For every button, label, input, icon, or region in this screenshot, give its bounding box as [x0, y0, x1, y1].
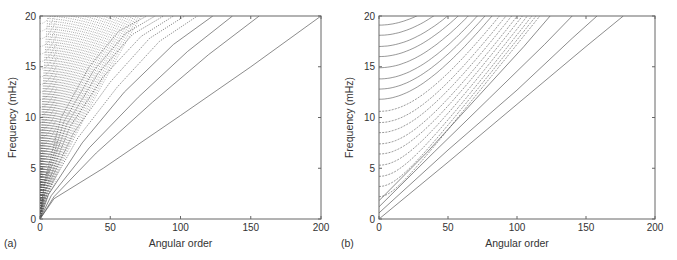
x-tick-label: 0 — [376, 222, 382, 233]
y-tick-label: 10 — [364, 112, 376, 123]
x-tick-label: 150 — [242, 222, 259, 233]
y-tick-label: 5 — [369, 163, 375, 174]
branch-line — [379, 9, 542, 187]
x-tick-label: 100 — [509, 222, 526, 233]
chart-a-svg: 05010015020005101520Angular orderFrequen… — [0, 0, 338, 260]
y-tick-label: 15 — [25, 61, 37, 72]
branch-line — [40, 16, 164, 219]
y-axis-label: Frequency (mHz) — [6, 77, 18, 158]
branch-line — [40, 16, 321, 219]
y-tick-label: 20 — [364, 11, 376, 22]
branch-line — [40, 19, 57, 39]
branch-line — [379, 16, 623, 219]
x-tick-label: 200 — [313, 222, 330, 233]
branch-line — [379, 10, 443, 36]
branch-line — [379, 9, 476, 68]
y-tick-label: 5 — [30, 163, 36, 174]
branch-line — [379, 9, 429, 25]
branch-line — [40, 4, 57, 24]
chart-b-svg: 05010015020005101520Angular orderFrequen… — [337, 0, 677, 260]
branch-line — [379, 16, 572, 207]
x-tick-label: 0 — [37, 222, 43, 233]
x-axis-label: Angular order — [485, 237, 549, 249]
panel-tag-b: (b) — [341, 237, 354, 249]
y-tick-label: 0 — [30, 214, 36, 225]
branch-line — [40, 16, 259, 219]
x-tick-label: 50 — [105, 222, 117, 233]
branch-line — [40, 16, 233, 219]
panel-b: 05010015020005101520Angular orderFrequen… — [337, 0, 675, 260]
branches — [379, 8, 623, 219]
x-tick-label: 150 — [578, 222, 595, 233]
x-axis-label: Angular order — [149, 237, 213, 249]
axes-frame — [379, 16, 655, 219]
branch-line — [379, 16, 597, 213]
y-tick-label: 0 — [369, 214, 375, 225]
branch-line — [40, 16, 127, 219]
x-tick-label: 200 — [647, 222, 664, 233]
y-tick-label: 20 — [25, 11, 37, 22]
branches — [40, 4, 321, 219]
x-tick-label: 50 — [442, 222, 454, 233]
branch-line — [379, 10, 465, 57]
branch-line — [40, 16, 213, 219]
y-tick-label: 15 — [364, 61, 376, 72]
branch-line — [40, 16, 174, 219]
y-axis-label: Frequency (mHz) — [343, 77, 355, 158]
branch-line — [379, 11, 489, 89]
panel-tag-a: (a) — [4, 237, 17, 249]
y-tick-label: 10 — [25, 112, 37, 123]
panel-a: 05010015020005101520Angular orderFrequen… — [0, 0, 338, 260]
x-tick-label: 100 — [172, 222, 189, 233]
